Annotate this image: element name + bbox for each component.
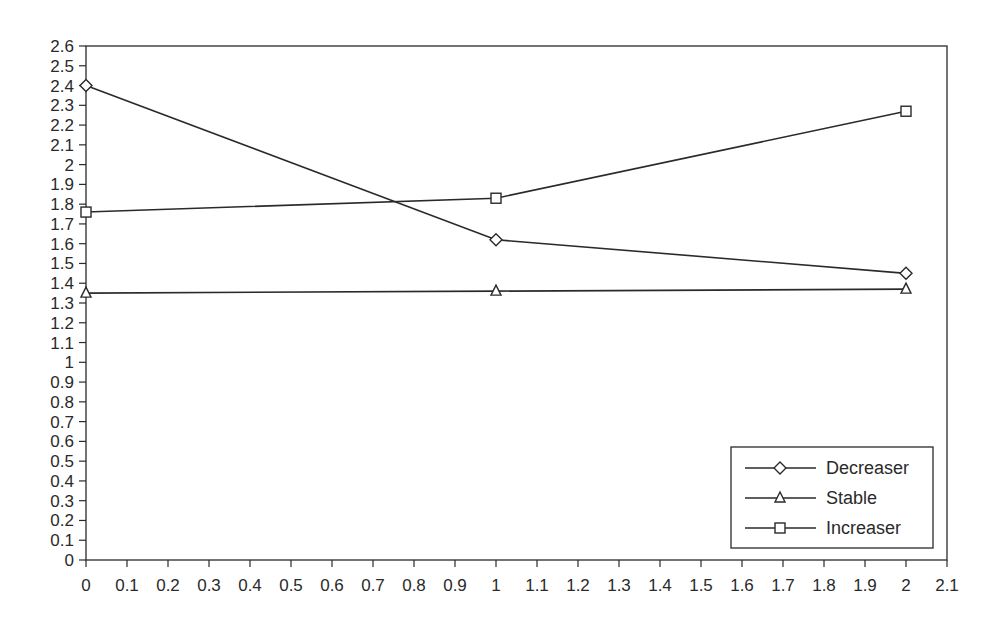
diamond-marker-icon [80, 80, 92, 92]
x-tick-label: 0.5 [279, 576, 303, 595]
legend-label: Decreaser [826, 458, 909, 478]
square-legend-icon [775, 523, 785, 533]
square-marker-icon [901, 106, 911, 116]
diamond-marker-icon [900, 267, 912, 279]
square-marker-icon [81, 207, 91, 217]
x-tick-label: 1.6 [730, 576, 754, 595]
y-tick-label: 2.3 [50, 96, 74, 115]
diamond-marker-icon [490, 234, 502, 246]
y-tick-label: 0 [65, 551, 74, 570]
y-tick-label: 2.4 [50, 77, 74, 96]
y-tick-label: 0.6 [50, 432, 74, 451]
y-tick-label: 0.7 [50, 413, 74, 432]
y-tick-label: 0.1 [50, 531, 74, 550]
x-tick-label: 0 [81, 576, 90, 595]
y-tick-label: 0.8 [50, 393, 74, 412]
x-tick-label: 1.1 [525, 576, 549, 595]
y-axis: 00.10.20.30.40.50.60.70.80.911.11.21.31.… [50, 37, 86, 570]
x-tick-label: 1.5 [689, 576, 713, 595]
series-increaser [81, 106, 911, 217]
y-tick-label: 0.4 [50, 472, 74, 491]
y-tick-label: 2 [65, 156, 74, 175]
legend-label: Increaser [826, 518, 901, 538]
x-tick-label: 2.1 [935, 576, 959, 595]
x-tick-label: 0.6 [320, 576, 344, 595]
y-tick-label: 0.2 [50, 511, 74, 530]
y-tick-label: 0.5 [50, 452, 74, 471]
y-tick-label: 1.6 [50, 235, 74, 254]
x-tick-label: 0.7 [361, 576, 385, 595]
series-lines [80, 80, 912, 298]
x-tick-label: 1.2 [566, 576, 590, 595]
triangle-marker-icon [491, 285, 501, 295]
x-tick-label: 0.9 [443, 576, 467, 595]
y-tick-label: 1.5 [50, 254, 74, 273]
y-tick-label: 1.7 [50, 215, 74, 234]
x-tick-label: 0.1 [115, 576, 139, 595]
x-tick-label: 0.3 [197, 576, 221, 595]
x-axis: 00.10.20.30.40.50.60.70.80.911.11.21.31.… [81, 560, 959, 595]
y-tick-label: 2.6 [50, 37, 74, 56]
line-chart: 00.10.20.30.40.50.60.70.80.911.11.21.31.… [0, 0, 987, 624]
square-marker-icon [491, 193, 501, 203]
triangle-marker-icon [901, 283, 911, 293]
y-tick-label: 2.2 [50, 116, 74, 135]
y-tick-label: 2.1 [50, 136, 74, 155]
x-tick-label: 1.4 [648, 576, 672, 595]
series-decreaser [80, 80, 912, 280]
x-tick-label: 1.8 [812, 576, 836, 595]
x-tick-label: 0.4 [238, 576, 262, 595]
y-tick-label: 1.4 [50, 274, 74, 293]
x-tick-label: 1 [491, 576, 500, 595]
y-tick-label: 1 [65, 353, 74, 372]
x-tick-label: 2 [901, 576, 910, 595]
x-tick-label: 0.2 [156, 576, 180, 595]
y-tick-label: 0.9 [50, 373, 74, 392]
y-tick-label: 1.1 [50, 334, 74, 353]
y-tick-label: 1.8 [50, 195, 74, 214]
x-tick-label: 1.9 [853, 576, 877, 595]
y-tick-label: 1.9 [50, 175, 74, 194]
x-tick-label: 1.3 [607, 576, 631, 595]
legend: DecreaserStableIncreaser [731, 447, 933, 548]
y-tick-label: 1.2 [50, 314, 74, 333]
y-tick-label: 1.3 [50, 294, 74, 313]
y-tick-label: 2.5 [50, 57, 74, 76]
triangle-marker-icon [81, 287, 91, 297]
y-tick-label: 0.3 [50, 492, 74, 511]
x-tick-label: 1.7 [771, 576, 795, 595]
legend-label: Stable [826, 488, 877, 508]
x-tick-label: 0.8 [402, 576, 426, 595]
series-stable [81, 283, 911, 297]
